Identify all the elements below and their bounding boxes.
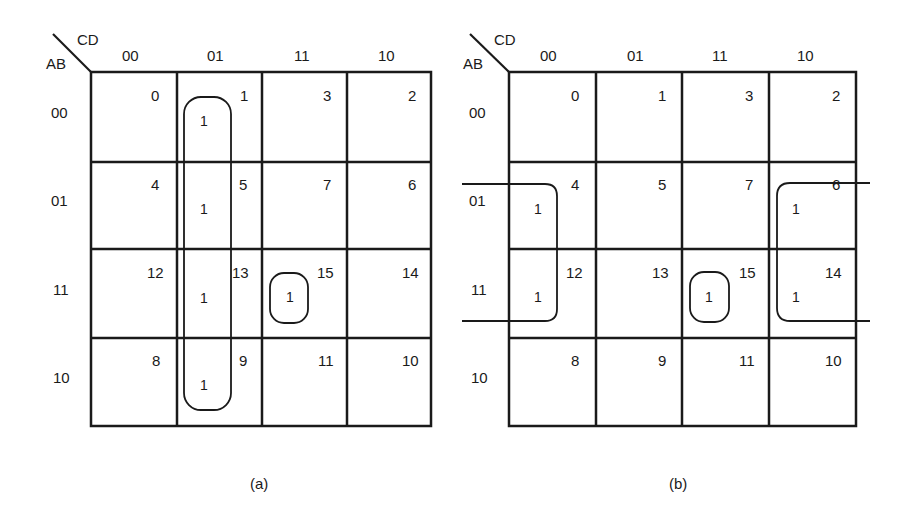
karnaugh-figure: CD AB 00 01 11 10 00 01 11 10 0 1 3 2 4 … xyxy=(0,0,907,524)
cell-index: 4 xyxy=(571,176,579,193)
cell-value-1: 1 xyxy=(200,113,208,129)
cell-index: 14 xyxy=(402,264,419,281)
row-variable-label: AB xyxy=(463,55,483,72)
col-header-00: 00 xyxy=(540,47,557,64)
cell-index: 8 xyxy=(571,352,579,369)
cell-index: 13 xyxy=(232,264,249,281)
col-variable-label: CD xyxy=(77,31,99,48)
row-header-11: 11 xyxy=(471,281,487,298)
caption: (a) xyxy=(250,475,268,492)
cell-index: 3 xyxy=(323,87,331,104)
cell-index: 13 xyxy=(652,264,669,281)
cell-value-1: 1 xyxy=(286,289,294,305)
cell-index: 7 xyxy=(745,176,753,193)
grid xyxy=(509,72,856,426)
cell-index: 0 xyxy=(571,87,579,104)
cell-value-1: 1 xyxy=(534,201,542,217)
col-variable-label: CD xyxy=(494,31,516,48)
cell-value-1: 1 xyxy=(792,289,800,305)
caption: (b) xyxy=(669,475,687,492)
row-variable-label: AB xyxy=(46,55,66,72)
cell-index: 8 xyxy=(152,352,160,369)
cell-index: 15 xyxy=(739,264,756,281)
col-header-11: 11 xyxy=(712,47,728,64)
row-header-00: 00 xyxy=(51,104,68,121)
col-header-00: 00 xyxy=(122,47,139,64)
row-header-01: 01 xyxy=(51,192,68,209)
cell-value-1: 1 xyxy=(534,289,542,305)
kmap-b: CD AB 00 01 11 10 00 01 11 10 0 1 3 2 4 … xyxy=(462,31,870,492)
cell-index: 3 xyxy=(745,87,753,104)
row-header-01: 01 xyxy=(469,192,486,209)
cell-index: 12 xyxy=(147,264,164,281)
col-header-01: 01 xyxy=(627,47,644,64)
cell-index: 7 xyxy=(323,176,331,193)
cell-index: 5 xyxy=(239,176,247,193)
cell-index: 12 xyxy=(566,264,583,281)
cell-index: 14 xyxy=(825,264,842,281)
col-header-01: 01 xyxy=(207,47,224,64)
cell-index: 1 xyxy=(240,87,248,104)
cell-index: 5 xyxy=(658,176,666,193)
cell-index: 1 xyxy=(658,87,666,104)
cell-value-1: 1 xyxy=(200,201,208,217)
group-loop-quad xyxy=(184,97,231,410)
cell-value-1: 1 xyxy=(705,289,713,305)
cell-value-1: 1 xyxy=(200,377,208,393)
row-header-10: 10 xyxy=(53,369,70,386)
col-header-10: 10 xyxy=(378,47,395,64)
cell-value-1: 1 xyxy=(792,201,800,217)
cell-index: 6 xyxy=(832,176,840,193)
cell-index: 6 xyxy=(408,176,416,193)
cell-index: 10 xyxy=(402,352,419,369)
row-header-11: 11 xyxy=(53,281,69,298)
col-header-10: 10 xyxy=(797,47,814,64)
cell-value-1: 1 xyxy=(200,290,208,306)
cell-index: 10 xyxy=(825,352,842,369)
cell-index: 11 xyxy=(318,352,334,369)
grid xyxy=(91,72,431,426)
row-header-10: 10 xyxy=(471,369,488,386)
cell-index: 2 xyxy=(832,87,840,104)
cell-index: 4 xyxy=(151,176,159,193)
col-header-11: 11 xyxy=(294,47,310,64)
cell-index: 15 xyxy=(317,264,334,281)
cell-index: 9 xyxy=(239,352,247,369)
cell-index: 11 xyxy=(739,352,755,369)
cell-index: 0 xyxy=(151,87,159,104)
row-header-00: 00 xyxy=(469,104,486,121)
kmap-a: CD AB 00 01 11 10 00 01 11 10 0 1 3 2 4 … xyxy=(46,31,431,492)
cell-index: 2 xyxy=(408,87,416,104)
cell-index: 9 xyxy=(658,352,666,369)
